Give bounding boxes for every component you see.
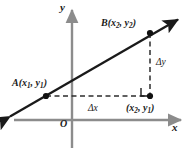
delta-y-label: Δy xyxy=(156,58,166,68)
point-b-label: B(x2, y2) xyxy=(101,18,136,30)
point-b-paren-close: ) xyxy=(133,17,136,28)
point-b-name: B xyxy=(101,17,108,28)
point-a-label: A(x1, y1) xyxy=(12,78,47,90)
slope-diagram-figure: y x O B(x2, y2) A(x1, y1) (x2, y1) Δx Δy xyxy=(0,0,190,155)
y-axis-label: y xyxy=(60,2,65,13)
point-a-name: A xyxy=(12,77,19,88)
point-corner-label: (x2, y1) xyxy=(126,103,154,115)
delta-x-label: Δx xyxy=(88,104,98,114)
point-a-marker xyxy=(43,93,49,99)
point-b-marker xyxy=(147,30,153,36)
point-a-paren-close: ) xyxy=(44,77,47,88)
x-axis-label: x xyxy=(172,122,178,133)
point-corner-paren-close: ) xyxy=(151,102,154,113)
point-corner-marker xyxy=(147,93,153,99)
origin-label: O xyxy=(60,119,67,129)
